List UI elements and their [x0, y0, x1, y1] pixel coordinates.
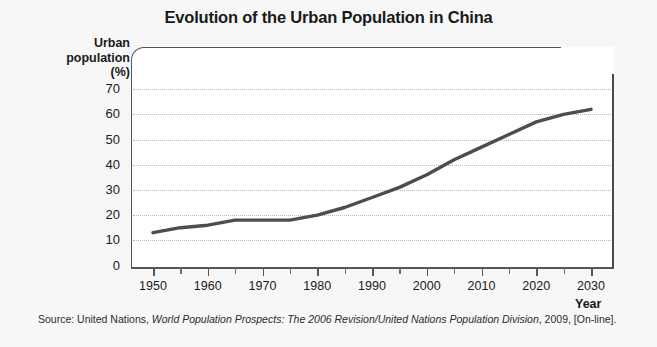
x-tick-2010: [482, 268, 484, 276]
source-note: Source: United Nations, World Population…: [38, 312, 638, 326]
x-tick-label-1970: 1970: [233, 279, 293, 293]
chart-figure: Evolution of the Urban Population in Chi…: [0, 0, 657, 347]
x-tick-label-2000: 2000: [397, 279, 457, 293]
gridline-20: [133, 215, 611, 216]
y-tick-label-0: 0: [78, 258, 120, 273]
x-tick-minor-2025: [564, 268, 565, 274]
x-axis-label: Year: [575, 297, 601, 311]
x-tick-minor-1975: [290, 268, 291, 274]
y-tick-label-60: 60: [78, 106, 120, 121]
y-tick-label-40: 40: [78, 157, 120, 172]
x-tick-minor-1985: [345, 268, 346, 274]
y-axis-label-line-2: population: [8, 51, 130, 66]
y-axis-label-line-1: Urban: [8, 36, 130, 51]
x-tick-1960: [208, 268, 210, 276]
y-tick-label-20: 20: [78, 207, 120, 222]
y-axis-label: Urban population (%): [8, 36, 130, 80]
x-tick-label-1950: 1950: [123, 279, 183, 293]
x-tick-minor-2015: [509, 268, 510, 274]
x-tick-label-2010: 2010: [452, 279, 512, 293]
gridline-70: [133, 89, 611, 90]
plot-right-border: [612, 74, 614, 268]
gridline-10: [133, 240, 611, 241]
gridline-60: [133, 114, 611, 115]
x-tick-1970: [263, 268, 265, 276]
y-axis-label-line-3: (%): [8, 65, 130, 80]
x-tick-minor-1955: [180, 268, 181, 274]
x-tick-2030: [591, 268, 593, 276]
gridline-50: [133, 140, 611, 141]
source-prefix: Source: United Nations,: [38, 313, 152, 325]
x-tick-2000: [427, 268, 429, 276]
x-tick-1980: [317, 268, 319, 276]
gridline-40: [133, 165, 611, 166]
chart-title: Evolution of the Urban Population in Chi…: [0, 8, 657, 27]
gridline-30: [133, 190, 611, 191]
x-tick-1990: [372, 268, 374, 276]
y-tick-label-50: 50: [78, 132, 120, 147]
x-tick-label-1980: 1980: [287, 279, 347, 293]
x-tick-label-1960: 1960: [178, 279, 238, 293]
x-tick-2020: [536, 268, 538, 276]
x-tick-label-1990: 1990: [342, 279, 402, 293]
y-tick-label-30: 30: [78, 182, 120, 197]
x-tick-label-2030: 2030: [561, 279, 621, 293]
source-suffix: , 2009, [On-line].: [539, 313, 617, 325]
source-publication: World Population Prospects: The 2006 Rev…: [152, 313, 539, 325]
x-tick-minor-2005: [454, 268, 455, 274]
y-tick-label-70: 70: [78, 81, 120, 96]
x-tick-1950: [153, 268, 155, 276]
plot-area-extension: [561, 47, 614, 268]
x-tick-minor-1995: [399, 268, 400, 274]
y-tick-label-10: 10: [78, 232, 120, 247]
x-tick-minor-1965: [235, 268, 236, 274]
x-tick-label-2020: 2020: [506, 279, 566, 293]
plot-area: [131, 47, 561, 268]
